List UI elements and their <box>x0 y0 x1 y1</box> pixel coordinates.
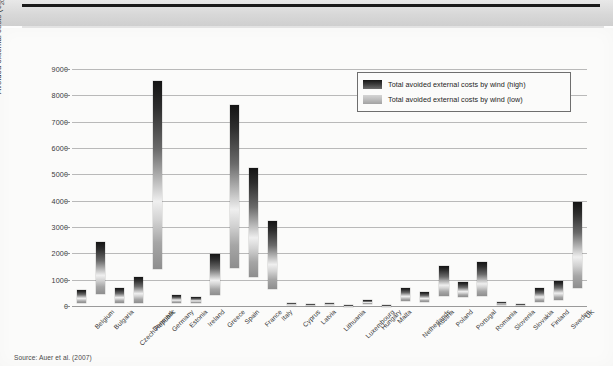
gridline-9000 <box>72 69 587 70</box>
bar-cyprus[interactable] <box>287 303 296 305</box>
bar-luxembourg[interactable] <box>344 305 353 307</box>
gridline-4000 <box>72 201 587 202</box>
legend-swatch-high-icon <box>363 80 382 89</box>
legend-label-high: Total avoided external costs by wind (hi… <box>388 80 526 89</box>
y-axis-tick-labels: 0100020003000400050006000700080009000 <box>28 69 68 306</box>
bar-greece[interactable] <box>210 254 219 294</box>
y-tick-label-0: 0 <box>28 302 68 311</box>
bar-uk[interactable] <box>573 202 582 288</box>
bar-slovenia[interactable] <box>497 302 506 305</box>
y-tick-label-5000: 5000 <box>28 170 68 179</box>
gridline-7000 <box>72 122 587 123</box>
y-tick-mark-1000 <box>64 280 70 281</box>
y-axis-title-sub: 2007 <box>0 0 5 5</box>
y-tick-mark-5000 <box>64 174 70 175</box>
x-tick-label-poland: Poland <box>454 308 474 328</box>
y-tick-mark-3000 <box>64 227 70 228</box>
legend-swatch-low-icon <box>363 95 382 104</box>
bar-bulgaria[interactable] <box>96 242 105 294</box>
bar-italy[interactable] <box>268 221 277 289</box>
bar-romania[interactable] <box>477 262 486 295</box>
legend-item-high: Total avoided external costs by wind (hi… <box>363 77 565 92</box>
bar-austria[interactable] <box>420 292 429 302</box>
gridline-1000 <box>72 280 587 281</box>
y-tick-mark-0 <box>64 306 70 307</box>
x-tick-label-lithuania: Lithuania <box>342 308 367 333</box>
x-axis-tick-labels: BelgiumBulgariaCzech RepublicDenmarkGerm… <box>72 308 587 366</box>
y-tick-label-2000: 2000 <box>28 249 68 258</box>
y-tick-label-6000: 6000 <box>28 144 68 153</box>
bar-malta[interactable] <box>382 305 391 307</box>
bar-ireland[interactable] <box>191 297 200 303</box>
bar-sweden[interactable] <box>554 281 563 300</box>
y-tick-mark-4000 <box>64 201 70 202</box>
y-tick-label-8000: 8000 <box>28 91 68 100</box>
bar-lithuania[interactable] <box>325 303 334 306</box>
bar-latvia[interactable] <box>306 304 315 306</box>
chart-legend: Total avoided external costs by wind (hi… <box>357 72 571 112</box>
bar-estonia[interactable] <box>172 295 181 303</box>
gridline-3000 <box>72 227 587 228</box>
x-tick-label-belgium: Belgium <box>93 308 115 330</box>
y-tick-mark-6000 <box>64 148 70 149</box>
bar-slovakia[interactable] <box>516 304 525 306</box>
source-note: Source: Auer et al. (2007) <box>14 354 92 361</box>
y-tick-label-3000: 3000 <box>28 223 68 232</box>
gridline-5000 <box>72 174 587 175</box>
x-tick-label-spain: Spain <box>243 308 260 325</box>
chart-figure: Avoided external costs (€2007m/yr) 01000… <box>0 28 613 366</box>
x-tick-label-ireland: Ireland <box>206 308 226 328</box>
legend-label-low: Total avoided external costs by wind (lo… <box>388 95 523 104</box>
bar-denmark[interactable] <box>134 277 143 303</box>
gridline-2000 <box>72 253 587 254</box>
y-tick-mark-2000 <box>64 253 70 254</box>
bar-france[interactable] <box>249 168 258 277</box>
y-tick-label-9000: 9000 <box>28 65 68 74</box>
y-tick-label-4000: 4000 <box>28 196 68 205</box>
bar-belgium[interactable] <box>77 290 86 303</box>
page-header-band <box>0 0 613 26</box>
bar-finland[interactable] <box>535 288 544 302</box>
bar-spain[interactable] <box>230 105 239 267</box>
y-axis-tick-marks <box>64 69 72 306</box>
x-tick-label-italy: Italy <box>280 308 294 322</box>
y-tick-label-1000: 1000 <box>28 275 68 284</box>
y-axis-title-pre: Avoided external costs (€ <box>0 5 3 94</box>
bar-portugal[interactable] <box>458 282 467 298</box>
y-tick-label-7000: 7000 <box>28 117 68 126</box>
gridline-0 <box>72 306 587 307</box>
bar-netherlands[interactable] <box>401 288 410 301</box>
gridline-6000 <box>72 148 587 149</box>
x-tick-label-cyprus: Cyprus <box>302 308 322 328</box>
legend-item-low: Total avoided external costs by wind (lo… <box>363 92 565 107</box>
y-tick-mark-8000 <box>64 95 70 96</box>
bar-hungary[interactable] <box>363 300 372 304</box>
bar-poland[interactable] <box>439 266 448 296</box>
y-tick-mark-9000 <box>64 69 70 70</box>
header-rule <box>22 4 600 7</box>
y-tick-mark-7000 <box>64 122 70 123</box>
x-tick-label-latvia: Latvia <box>320 308 338 326</box>
bar-germany[interactable] <box>153 81 162 269</box>
bar-czech-republic[interactable] <box>115 288 124 302</box>
y-axis-title: Avoided external costs (€2007m/yr) <box>0 0 5 94</box>
